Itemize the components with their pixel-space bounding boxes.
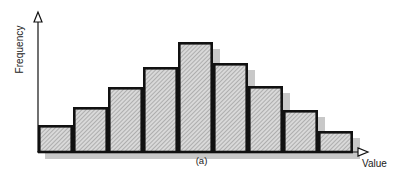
histogram-bar <box>179 43 211 152</box>
histogram-bar <box>109 88 141 152</box>
histogram-bar <box>39 126 71 152</box>
histogram-bar <box>74 108 106 152</box>
histogram-bar <box>284 111 316 152</box>
figure-canvas: Frequency Value (a) <box>0 0 403 175</box>
histogram-bar <box>214 64 246 152</box>
y-axis-arrow-icon <box>34 12 42 22</box>
y-axis-label: Frequency <box>14 15 25 85</box>
histogram-bar <box>319 132 351 152</box>
histogram-bar <box>249 87 281 152</box>
histogram-bar <box>144 68 176 152</box>
histogram-plot <box>0 0 403 175</box>
panel-label: (a) <box>0 155 403 166</box>
